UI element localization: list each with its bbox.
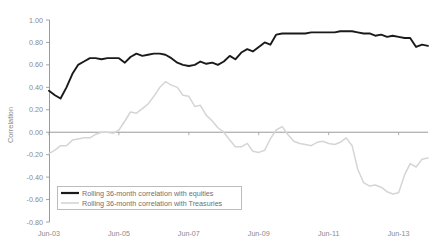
legend-label-equities: Rolling 36-month correlation with equiti… [82,189,214,198]
y-tick-label: 1.00 [29,16,43,25]
y-tick-label: 0.80 [29,38,43,47]
x-tick-label: Jun-09 [248,229,270,238]
chart-legend: Rolling 36-month correlation with equiti… [58,187,242,210]
chart-canvas: 1.000.800.600.400.200.00-0.20-0.40-0.60-… [0,0,437,248]
y-tick-label: -0.20 [27,150,43,159]
x-tick-label: Jun-03 [38,229,60,238]
y-axis-ticks: 1.000.800.600.400.200.00-0.20-0.40-0.60-… [27,16,50,227]
y-tick-label: 0.40 [29,83,43,92]
x-tick-label: Jun-11 [318,229,339,238]
y-axis-title: Correlation [6,107,15,143]
x-tick-label: Jun-05 [108,229,130,238]
y-tick-label: 0.60 [29,60,43,69]
y-tick-label: -0.40 [27,173,43,182]
legend-label-treasuries: Rolling 36-month correlation with Treasu… [82,199,223,208]
x-tick-label: Jun-13 [388,229,410,238]
y-tick-label: -0.80 [27,218,43,227]
y-tick-label: -0.60 [27,195,43,204]
y-tick-label: 0.00 [29,128,43,137]
x-tick-label: Jun-07 [178,229,200,238]
y-tick-label: 0.20 [29,105,43,114]
correlation-chart: 1.000.800.600.400.200.00-0.20-0.40-0.60-… [0,0,437,248]
